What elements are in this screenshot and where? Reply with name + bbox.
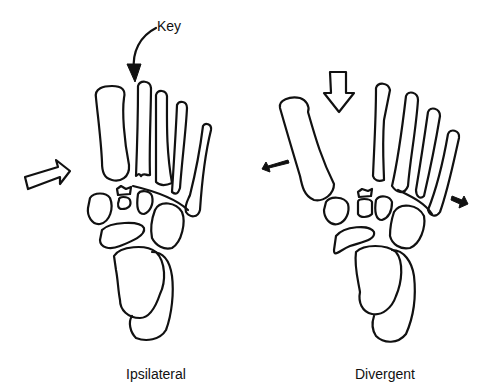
fifth-metatarsal <box>185 124 211 216</box>
navicular-divergent <box>334 227 374 253</box>
cuboid-divergent <box>390 206 424 249</box>
divergent-foot <box>262 72 468 342</box>
intermediate-cuneiform <box>118 197 131 209</box>
force-arrow-right-icon <box>25 160 70 189</box>
lateral-cuneiform-divergent <box>375 196 392 220</box>
medial-cuneiform <box>88 194 112 225</box>
first-metatarsal-divergent <box>280 97 334 200</box>
second-metatarsal-divergent <box>373 84 390 181</box>
cuboid <box>151 203 183 248</box>
fifth-metatarsal-divergent <box>428 131 459 216</box>
calcaneus <box>130 252 173 340</box>
medial-cuneiform-divergent <box>324 198 349 225</box>
foot-diagram <box>0 0 488 392</box>
fourth-metatarsal <box>172 102 187 194</box>
second-metatarsal <box>136 82 151 176</box>
first-metatarsal <box>96 86 129 180</box>
calcaneus-divergent <box>373 250 415 342</box>
talus <box>114 247 164 318</box>
divergence-arrow-left-icon <box>262 160 289 172</box>
third-metatarsal-divergent <box>392 93 418 193</box>
divergent-caption: Divergent <box>355 366 415 382</box>
third-metatarsal <box>156 91 172 185</box>
force-arrow-down-icon <box>324 72 354 112</box>
key-label: Key <box>157 18 181 34</box>
key-arrowhead-icon <box>127 64 141 82</box>
lateral-cuneiform <box>137 191 152 214</box>
divergence-arrow-right-icon <box>451 196 468 208</box>
navicular <box>100 223 144 248</box>
intermediate-cuneiform-divergent <box>358 199 372 217</box>
intermediate-cuneiform-fragment-divergent <box>358 189 372 197</box>
ipsilateral-foot <box>25 28 211 340</box>
talus-divergent <box>355 246 401 314</box>
ipsilateral-caption: Ipsilateral <box>126 366 186 382</box>
intermediate-cuneiform-fragment <box>117 186 131 195</box>
tarsometatarsal-line-divergent <box>398 190 432 214</box>
